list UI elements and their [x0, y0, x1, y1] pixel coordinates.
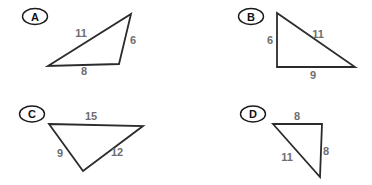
triangle-c-side-label: 9 [57, 147, 63, 159]
triangle-b [277, 13, 355, 67]
triangle-a-side-label: 11 [75, 27, 87, 39]
figure-b-label: B [247, 11, 255, 23]
triangle-a-side-label: 8 [81, 65, 87, 77]
triangle-c-side-label: 15 [85, 110, 97, 122]
triangle-b-side-label: 6 [267, 34, 273, 46]
triangle-worksheet: A 11 6 8 B 6 11 9 C 15 9 12 D [0, 0, 372, 185]
triangle-a [48, 14, 131, 66]
triangle-c-side-label: 12 [111, 146, 123, 158]
triangle-a-side-label: 6 [130, 34, 136, 46]
figure-d-label: D [249, 108, 257, 120]
diagram-canvas: A 11 6 8 B 6 11 9 C 15 9 12 D [0, 0, 372, 185]
figure-d-group: D 8 8 11 [241, 106, 330, 177]
figure-c-label: C [28, 108, 36, 120]
triangle-d-side-label: 11 [281, 151, 293, 163]
triangle-d-side-label: 8 [294, 110, 300, 122]
triangle-d-side-label: 8 [323, 145, 329, 157]
figure-a-label: A [31, 11, 39, 23]
figure-b-group: B 6 11 9 [239, 9, 356, 82]
triangle-c [49, 124, 143, 171]
triangle-b-side-label: 9 [310, 69, 316, 81]
figure-a-group: A 11 6 8 [23, 9, 137, 78]
triangle-b-side-label: 11 [312, 28, 324, 40]
figure-c-group: C 15 9 12 [20, 106, 144, 171]
